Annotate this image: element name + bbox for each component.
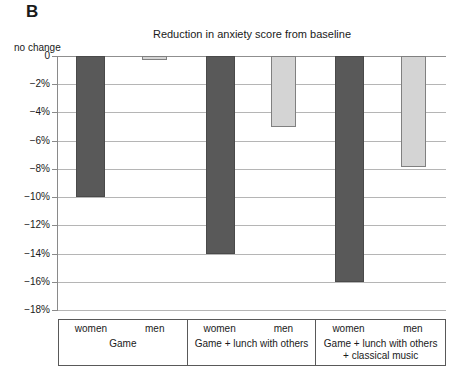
category-group-2: womenmenGame + lunch with others [188,320,317,365]
subgroup-row: womenmen [188,320,316,338]
y-tick-label: 0 [4,50,50,61]
subgroup-label-men: men [123,323,187,335]
subgroup-label-women: women [59,323,123,335]
subgroup-label-women: women [316,323,380,335]
bar-men-group-3 [401,56,426,167]
y-tick-label: −14% [4,248,50,259]
gridline [58,197,446,198]
chart-title: Reduction in anxiety score from baseline [58,28,446,41]
subgroup-label-men: men [252,323,316,335]
category-group-3: womenmenGame + lunch with others+ classi… [316,320,445,365]
gridline [58,84,446,85]
bar-men-group-1 [142,56,167,60]
category-group-name: Game + lunch with others [188,338,316,356]
y-tick-label: −18% [4,304,50,315]
y-tick-label: −4% [4,106,50,117]
plot-area [58,56,446,310]
y-tick-label: −6% [4,135,50,146]
gridline [58,225,446,226]
category-group-name: Game [59,338,187,356]
subgroup-row: womenmen [316,320,445,338]
gridline [58,112,446,113]
y-tick-label: −8% [4,163,50,174]
panel-label: B [26,3,38,20]
y-tick-label: −2% [4,78,50,89]
gridline [58,169,446,170]
y-tick-label: −16% [4,276,50,287]
bar-men-group-2 [271,56,296,127]
bar-women-group-3 [335,56,364,282]
gridline [58,56,446,57]
subgroup-label-men: men [381,323,445,335]
category-group-name: Game + lunch with others+ classical musi… [316,338,445,365]
category-group-1: womenmenGame [59,320,188,365]
gridline [58,282,446,283]
y-tick-label: −10% [4,191,50,202]
gridline [58,141,446,142]
subgroup-row: womenmen [59,320,187,338]
gridline [58,310,446,311]
gridline [58,254,446,255]
bar-women-group-2 [206,56,235,254]
category-label-table: womenmenGamewomenmenGame + lunch with ot… [58,319,446,366]
bar-women-group-1 [76,56,105,197]
subgroup-label-women: women [188,323,252,335]
y-tick-label: −12% [4,219,50,230]
